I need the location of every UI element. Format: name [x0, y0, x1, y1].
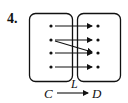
mapping-diagram [0, 0, 128, 103]
set-d-points [96, 24, 99, 68]
set-d-box [78, 14, 121, 82]
mapping-arrows [55, 26, 92, 67]
set-c-points [49, 24, 52, 68]
set-d-label: D [92, 87, 101, 100]
map-label: L [71, 78, 78, 90]
set-c-label: C [44, 87, 53, 100]
set-c-box [30, 14, 73, 82]
